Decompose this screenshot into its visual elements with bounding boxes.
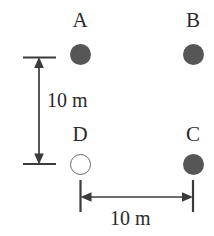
node-marker-d: [70, 154, 91, 175]
node-label-c: C: [181, 124, 205, 145]
horizontal-dimension-arrowhead-right: [182, 192, 193, 202]
horizontal-dimension-arrowhead-left: [81, 192, 92, 202]
vertical-dimension-arrowhead-down: [34, 154, 44, 165]
node-marker-c: [183, 154, 204, 175]
vertical-dimension-label: 10 m: [47, 90, 88, 110]
node-label-a: A: [68, 10, 92, 31]
node-marker-b: [183, 44, 204, 65]
point-layout-diagram: A B D C 10 m 10 m: [0, 0, 214, 236]
horizontal-dimension-label: 10 m: [110, 208, 151, 228]
vertical-dimension-arrowhead-up: [34, 57, 44, 68]
node-marker-a: [70, 44, 91, 65]
node-label-b: B: [181, 10, 205, 31]
dimension-lines-overlay: [0, 0, 214, 236]
node-label-d: D: [68, 124, 92, 145]
